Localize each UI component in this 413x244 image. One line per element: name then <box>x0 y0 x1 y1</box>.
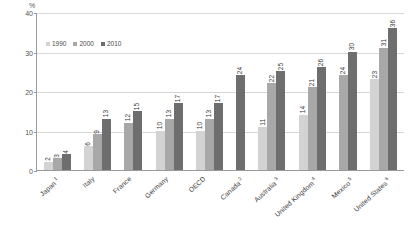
bar[interactable] <box>308 87 317 170</box>
bar-column: 3 <box>53 13 62 170</box>
bar[interactable] <box>62 154 71 170</box>
category-label-slot: Italy <box>73 173 110 243</box>
bar-value-label: 14 <box>300 106 307 113</box>
bar[interactable] <box>379 48 388 170</box>
bar-column: 36 <box>388 13 397 170</box>
bar-value-label: 36 <box>390 20 397 27</box>
footnote-marker: 3 <box>272 175 279 182</box>
bar[interactable] <box>205 119 214 170</box>
bar-value-label: 6 <box>85 142 92 146</box>
bar-value-label: 4 <box>63 150 70 154</box>
bar[interactable] <box>236 75 245 170</box>
bar-column: 24 <box>339 13 348 170</box>
bar-value-label: 30 <box>349 43 356 50</box>
bar-value-label: 24 <box>340 67 347 74</box>
bar-value-label: 26 <box>318 59 325 66</box>
bar-column: 25 <box>276 13 285 170</box>
category-label-slot: OECD <box>183 173 220 243</box>
bar-chart: % 010203040 2346913121510131710131724112… <box>0 0 413 244</box>
bar-column: 13 <box>205 13 214 170</box>
bar-value-label: 24 <box>237 67 244 74</box>
bar[interactable] <box>133 111 142 170</box>
legend-label: 2000 <box>79 40 93 47</box>
bar-group: 142126 <box>299 13 326 170</box>
bar-column: 12 <box>124 13 133 170</box>
bar-value-label: 12 <box>125 114 132 121</box>
bar[interactable] <box>317 67 326 170</box>
bar-value-label: 13 <box>206 110 213 117</box>
category-label-slot: United States 6 <box>367 173 404 243</box>
plot-area: 010203040 234691312151013171013172411222… <box>36 13 404 171</box>
category-label-slot: Japan 1 <box>36 173 73 243</box>
y-axis-tick-mark <box>34 171 37 172</box>
y-axis-tick-label: 10 <box>25 128 33 135</box>
legend-item-2010[interactable]: 2010 <box>101 40 121 47</box>
bar-column: 10 <box>196 13 205 170</box>
bar-column: 23 <box>370 13 379 170</box>
y-axis-tick-label: 0 <box>29 168 33 175</box>
bar-column: 17 <box>214 13 223 170</box>
legend-swatch-icon <box>46 42 50 46</box>
category-label-slot: France <box>110 173 147 243</box>
bar[interactable] <box>174 103 183 170</box>
bar-value-label: 11 <box>260 119 267 126</box>
legend-item-1990[interactable]: 1990 <box>46 40 66 47</box>
bar-column: 31 <box>379 13 388 170</box>
bar-group: 24 <box>236 13 245 170</box>
bar[interactable] <box>267 83 276 170</box>
bar-value-label: 21 <box>309 79 316 86</box>
footnote-marker: 6 <box>382 175 389 182</box>
bar-groups: 2346913121510131710131724112225142126243… <box>37 13 404 170</box>
bar[interactable] <box>339 75 348 170</box>
bar[interactable] <box>93 134 102 170</box>
bar-column: 26 <box>317 13 326 170</box>
category-label-slot: Canada 2 <box>220 173 257 243</box>
legend-item-2000[interactable]: 2000 <box>73 40 93 47</box>
bar-column: 9 <box>93 13 102 170</box>
bar[interactable] <box>214 103 223 170</box>
bar-value-label: 25 <box>278 63 285 70</box>
bar[interactable] <box>156 131 165 171</box>
bar[interactable] <box>53 158 62 170</box>
bar[interactable] <box>102 119 111 170</box>
bar[interactable] <box>258 127 267 170</box>
category-label-italy: Italy <box>82 175 96 189</box>
bar-column: 14 <box>299 13 308 170</box>
y-axis-tick-label: 20 <box>25 89 33 96</box>
bar-value-label: 2 <box>45 157 52 161</box>
bar[interactable] <box>165 119 174 170</box>
bar-column: 11 <box>258 13 267 170</box>
bar-group: 234 <box>44 13 71 170</box>
bar-value-label: 10 <box>197 122 204 129</box>
bar[interactable] <box>44 162 53 170</box>
legend-swatch-icon <box>73 42 77 46</box>
bar-column: 30 <box>348 13 357 170</box>
bar-value-label: 3 <box>54 154 61 158</box>
footnote-marker: 2 <box>235 175 242 182</box>
category-label-slot: United Kingdom 4 <box>294 173 331 243</box>
bar[interactable] <box>299 115 308 170</box>
bar-group: 101317 <box>196 13 223 170</box>
bar-value-label: 17 <box>175 95 182 102</box>
bar[interactable] <box>276 71 285 170</box>
bar-value-label: 17 <box>215 95 222 102</box>
category-label-germany: Germany <box>144 175 170 199</box>
category-label-france: France <box>112 175 133 195</box>
bar-column: 13 <box>165 13 174 170</box>
footnote-marker: 4 <box>309 175 316 182</box>
bar-value-label: 10 <box>157 122 164 129</box>
bar-column: 21 <box>308 13 317 170</box>
bar-value-label: 15 <box>134 103 141 110</box>
bar[interactable] <box>196 131 205 171</box>
footnote-marker: 5 <box>346 175 353 182</box>
legend-swatch-icon <box>101 42 105 46</box>
bar-value-label: 9 <box>94 130 101 134</box>
bar[interactable] <box>388 28 397 170</box>
bar-column: 24 <box>236 13 245 170</box>
bar-column: 2 <box>44 13 53 170</box>
bar[interactable] <box>124 123 133 170</box>
bar[interactable] <box>84 146 93 170</box>
bar-group: 1215 <box>124 13 142 170</box>
bar[interactable] <box>370 79 379 170</box>
bar[interactable] <box>348 52 357 171</box>
